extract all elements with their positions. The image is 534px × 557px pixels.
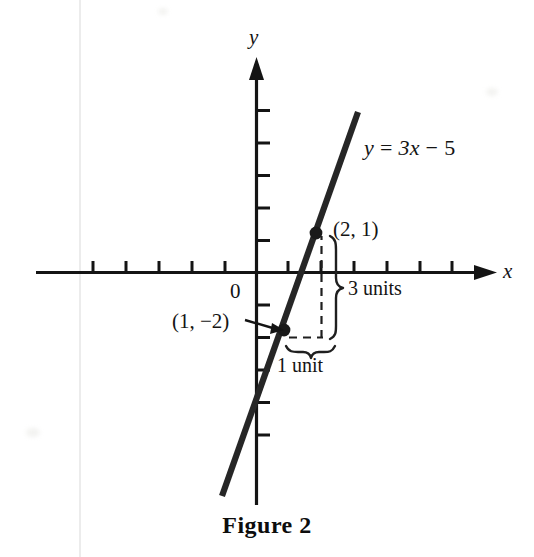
rise-brace: [330, 236, 343, 339]
equation-lhs: y: [364, 135, 374, 160]
point-marker-2-1: [310, 227, 323, 240]
equation-label: y = 3x − 5: [364, 137, 455, 159]
coordinate-plane-graphic: [0, 0, 534, 557]
point-label-1-neg2: (1, −2): [172, 311, 229, 332]
run-units-label: 1 unit: [277, 355, 323, 375]
y-axis: [249, 57, 270, 505]
y-axis-arrowhead: [249, 57, 264, 80]
equation-slope-term: 3x: [398, 135, 419, 160]
x-axis: [36, 261, 497, 280]
figure-container: y x 0 y = 3x − 5 (2, 1) (1, −2) 3 units …: [0, 0, 534, 557]
rise-units-label: 3 units: [348, 278, 402, 298]
origin-label: 0: [230, 281, 241, 302]
figure-caption: Figure 2: [0, 512, 534, 539]
y-axis-label: y: [249, 27, 258, 48]
graph-line: [222, 112, 358, 496]
equation-minus-sign: −: [426, 135, 439, 160]
equation-equals: =: [380, 135, 393, 160]
equation-intercept: 5: [444, 135, 455, 160]
point-label-2-1: (2, 1): [333, 219, 379, 240]
x-axis-label: x: [503, 261, 512, 282]
x-axis-arrowhead: [474, 265, 497, 280]
